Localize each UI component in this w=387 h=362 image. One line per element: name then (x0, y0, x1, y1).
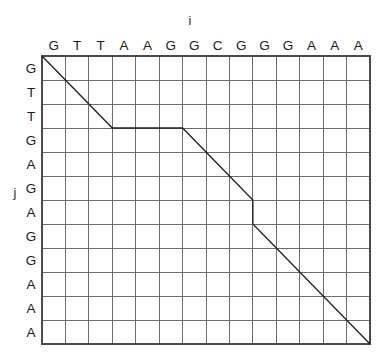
column-label-3: A (119, 38, 128, 53)
y-axis-label: j (13, 186, 17, 200)
column-label-8: G (236, 38, 247, 53)
alignment-matrix-svg: i j GTTAAGGCGGGAAA GTTGAGAGGAAA (0, 0, 387, 362)
row-label-7: G (26, 229, 37, 244)
column-label-12: A (330, 38, 339, 53)
column-label-2: T (96, 38, 104, 53)
row-label-5: G (26, 181, 37, 196)
column-label-6: G (189, 38, 200, 53)
row-label-4: A (26, 157, 35, 172)
row-label-8: G (26, 253, 37, 268)
column-label-1: T (73, 38, 81, 53)
row-label-0: G (26, 61, 37, 76)
row-label-6: A (26, 205, 35, 220)
x-axis-label: i (189, 14, 192, 28)
column-label-10: G (283, 38, 294, 53)
row-label-11: A (26, 325, 35, 340)
row-sequence-labels: GTTGAGAGGAAA (26, 61, 37, 340)
column-label-0: G (48, 38, 59, 53)
row-label-3: G (26, 133, 37, 148)
alignment-matrix-figure: i j GTTAAGGCGGGAAA GTTGAGAGGAAA (0, 0, 387, 362)
column-label-9: G (259, 38, 270, 53)
column-label-5: G (166, 38, 177, 53)
row-label-10: A (26, 301, 35, 316)
row-label-2: T (27, 109, 35, 124)
column-label-4: A (143, 38, 152, 53)
column-label-13: A (354, 38, 363, 53)
row-label-9: A (26, 277, 35, 292)
column-sequence-labels: GTTAAGGCGGGAAA (48, 38, 362, 53)
column-label-11: A (307, 38, 316, 53)
grid-lines-group (42, 56, 370, 344)
column-label-7: C (213, 38, 223, 53)
row-label-1: T (27, 85, 35, 100)
